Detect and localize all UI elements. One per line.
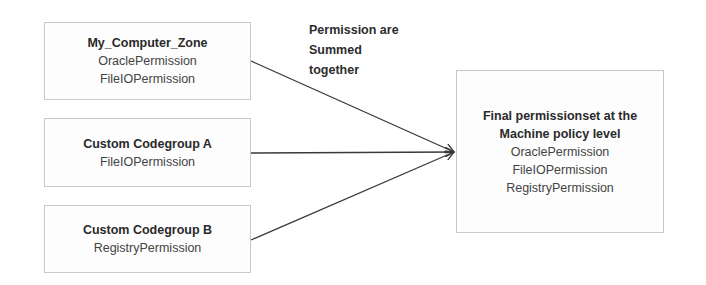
codegroup-box-my-computer-zone: My_Computer_Zone OraclePermission FileIO… [44, 22, 251, 100]
permission-item: OraclePermission [98, 52, 197, 70]
codegroup-box-custom-a: Custom Codegroup A FileIOPermission [44, 118, 251, 187]
annotation-line: Permission are [309, 20, 399, 40]
final-title-line: Machine policy level [500, 125, 621, 143]
permission-item: FileIOPermission [512, 161, 607, 179]
summed-annotation: Permission are Summed together [309, 20, 399, 80]
permission-item: RegistryPermission [506, 179, 614, 197]
annotation-line: Summed [309, 40, 399, 60]
permission-item: OraclePermission [511, 143, 610, 161]
permission-item: FileIOPermission [100, 153, 195, 171]
codegroup-title: Custom Codegroup B [83, 221, 212, 239]
codegroup-title: My_Computer_Zone [87, 34, 207, 52]
final-permissionset-box: Final permissionset at the Machine polic… [456, 70, 664, 233]
arrow-b-to-final [251, 152, 454, 240]
codegroup-box-custom-b: Custom Codegroup B RegistryPermission [44, 205, 251, 273]
permission-item: FileIOPermission [100, 70, 195, 88]
final-title-line: Final permissionset at the [483, 107, 637, 125]
codegroup-title: Custom Codegroup A [83, 135, 212, 153]
arrow-a-to-final [251, 152, 454, 153]
annotation-line: together [309, 60, 399, 80]
permission-item: RegistryPermission [94, 239, 202, 257]
